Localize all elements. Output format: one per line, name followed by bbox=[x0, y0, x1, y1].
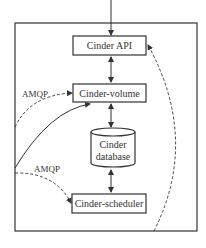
cinder-api-node: Cinder API bbox=[73, 36, 146, 55]
cinder-architecture-diagram: Cinder API Cinder-volume Cinder database… bbox=[0, 0, 206, 248]
cinder-database-node: Cinder database bbox=[91, 128, 135, 167]
cinder-volume-node: Cinder-volume bbox=[73, 84, 146, 102]
database-label-line2: database bbox=[96, 151, 131, 162]
left-volume-curve bbox=[15, 104, 90, 168]
scheduler-api-return-arrow bbox=[148, 45, 176, 231]
database-label-line1: Cinder bbox=[99, 139, 127, 150]
cinder-scheduler-node: Cinder-scheduler bbox=[72, 194, 146, 213]
amqp-volume-label: AMQP bbox=[22, 89, 48, 99]
cinder-scheduler-label: Cinder-scheduler bbox=[75, 198, 144, 209]
cinder-api-label: Cinder API bbox=[87, 40, 132, 51]
amqp-scheduler-label: AMQP bbox=[34, 164, 60, 174]
amqp-scheduler-arrow bbox=[15, 173, 71, 203]
cinder-volume-label: Cinder-volume bbox=[79, 88, 140, 99]
